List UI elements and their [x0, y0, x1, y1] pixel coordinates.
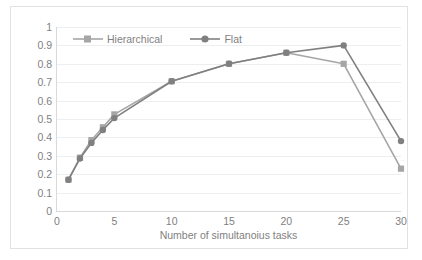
y-axis-tick-label: 0.6: [37, 95, 52, 106]
x-axis-tick-label: 20: [280, 216, 292, 227]
y-axis-tick-label: 0.7: [37, 77, 52, 88]
y-axis-tick-label: 0.5: [37, 114, 52, 125]
data-point-marker: [111, 115, 117, 121]
y-axis-tick-label: 0.2: [37, 169, 52, 180]
scan-artifact: ~: [401, 157, 405, 164]
legend-marker-flat: [190, 34, 220, 44]
legend-label-flat: Flat: [224, 34, 242, 45]
legend-item-flat[interactable]: Flat: [190, 34, 242, 45]
y-axis-tick-label: 0.9: [37, 40, 52, 51]
x-axis-tick-label: 15: [223, 216, 235, 227]
data-point-marker: [283, 50, 289, 56]
x-axis-tick-label: 30: [395, 216, 407, 227]
y-axis-tick-label: 0.1: [37, 187, 52, 198]
y-axis-tick-label: 0.4: [37, 132, 52, 143]
x-axis-tick-label: 10: [166, 216, 178, 227]
legend-label-hierarchical: Hierarchical: [107, 34, 162, 45]
x-axis-tick-label: 5: [111, 216, 117, 227]
y-axis-tick-label: 0.8: [37, 59, 52, 70]
data-point-marker: [398, 138, 404, 144]
y-axis-tick-label: 0.3: [37, 151, 52, 162]
legend-marker-hierarchical: [73, 34, 103, 44]
data-point-marker: [340, 42, 346, 48]
y-axis-tick-label: 1: [46, 22, 52, 33]
data-series-layer: [57, 27, 401, 211]
x-axis-tick-label: 0: [54, 216, 60, 227]
x-axis-title: Number of simultanoius tasks: [56, 229, 401, 241]
data-point-marker: [77, 155, 83, 161]
data-point-marker: [100, 127, 106, 133]
plot-area: 00.10.20.30.40.50.60.70.80.91 0510152025…: [56, 27, 401, 212]
data-point-marker: [168, 78, 174, 84]
chart-container: 00.10.20.30.40.50.60.70.80.91 0510152025…: [10, 6, 408, 249]
legend-item-hierarchical[interactable]: Hierarchical: [73, 34, 162, 45]
chart-legend: Hierarchical Flat: [73, 34, 242, 45]
data-point-marker: [398, 166, 404, 172]
y-axis-tick-label: 0: [46, 206, 52, 217]
x-axis-tick-label: 25: [338, 216, 350, 227]
data-point-marker: [226, 61, 232, 67]
data-point-marker: [341, 61, 347, 67]
data-point-marker: [88, 140, 94, 146]
data-point-marker: [65, 177, 71, 183]
scan-artifact: ·: [401, 189, 403, 196]
